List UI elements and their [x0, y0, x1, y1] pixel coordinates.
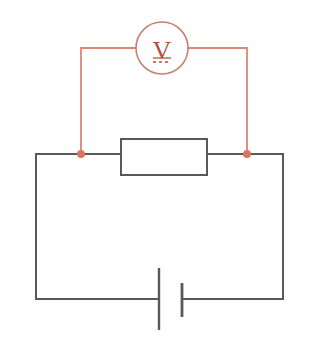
junction-node-left — [77, 150, 85, 158]
resistor-component — [121, 139, 207, 175]
voltmeter-label: V — [153, 36, 172, 65]
battery-component — [159, 268, 182, 330]
junction-node-right — [243, 150, 251, 158]
circuit-diagram: V — [0, 0, 313, 340]
circuit-canvas: V — [0, 0, 313, 340]
